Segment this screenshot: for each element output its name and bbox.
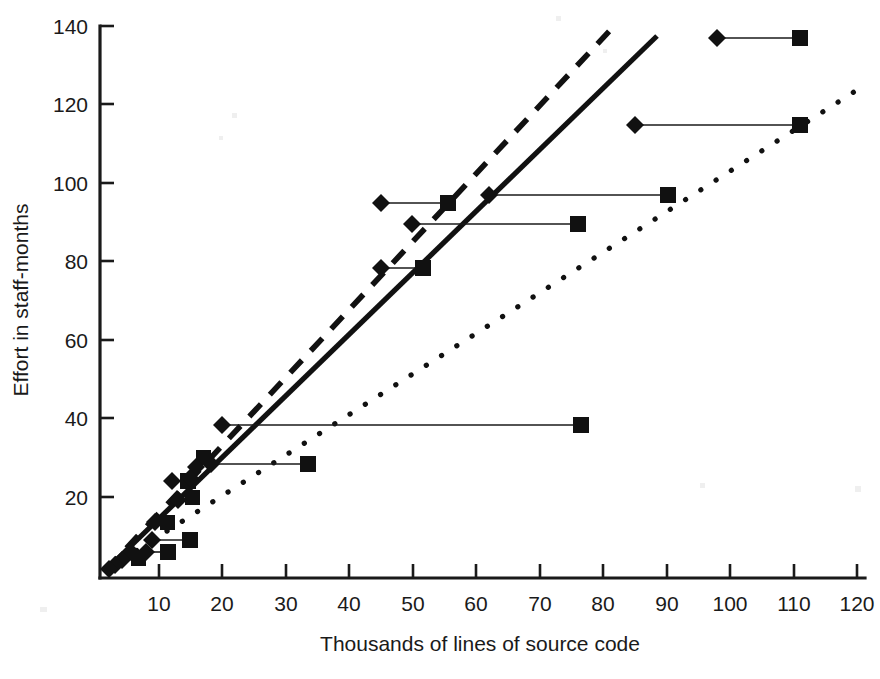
x-tick-label: 100 bbox=[712, 592, 747, 615]
chart-figure: 140 120 100 80 60 40 20 10 20 30 40 50 6… bbox=[0, 0, 880, 679]
marker-square bbox=[570, 216, 586, 232]
scatter-point-group bbox=[100, 450, 211, 578]
marker-diamond bbox=[213, 416, 231, 434]
marker-square bbox=[131, 551, 146, 566]
marker-square bbox=[182, 532, 198, 548]
paired-range bbox=[626, 116, 808, 134]
marker-diamond bbox=[480, 186, 498, 204]
solid-model-line bbox=[106, 36, 657, 570]
axis-frame bbox=[100, 26, 865, 578]
paired-range bbox=[480, 186, 676, 204]
x-axis-title: Thousands of lines of source code bbox=[320, 632, 640, 655]
paired-range bbox=[708, 29, 808, 47]
x-axis-ticks bbox=[159, 564, 857, 578]
x-tick-label: 70 bbox=[528, 592, 551, 615]
marker-diamond bbox=[372, 259, 390, 277]
y-tick-label: 20 bbox=[65, 486, 88, 509]
marker-diamond bbox=[626, 116, 644, 134]
y-tick-label: 80 bbox=[65, 250, 88, 273]
x-tick-label: 90 bbox=[655, 592, 678, 615]
marker-square bbox=[660, 187, 676, 203]
x-tick-label: 40 bbox=[337, 592, 360, 615]
x-tick-label: 30 bbox=[274, 592, 297, 615]
x-tick-label: 10 bbox=[147, 592, 170, 615]
y-tick-label: 40 bbox=[65, 407, 88, 430]
dotted-model-line bbox=[106, 90, 857, 570]
paired-range bbox=[213, 416, 589, 434]
paired-range bbox=[372, 259, 431, 277]
y-tick-label: 100 bbox=[53, 172, 88, 195]
marker-diamond bbox=[708, 29, 726, 47]
x-tick-label: 110 bbox=[777, 592, 810, 615]
y-axis-ticks bbox=[100, 26, 114, 497]
marker-square bbox=[440, 195, 456, 211]
marker-diamond bbox=[163, 472, 181, 490]
x-axis-tick-labels: 10 20 30 40 50 60 70 80 90 100 110 120 bbox=[147, 592, 874, 615]
y-axis-title: Effort in staff-months bbox=[9, 204, 32, 397]
paired-range-group bbox=[137, 29, 808, 561]
marker-square bbox=[300, 456, 316, 472]
marker-square bbox=[573, 417, 589, 433]
y-tick-label: 60 bbox=[65, 329, 88, 352]
x-tick-label: 80 bbox=[591, 592, 614, 615]
marker-square bbox=[792, 117, 808, 133]
marker-square bbox=[185, 490, 200, 505]
x-tick-label: 60 bbox=[464, 592, 487, 615]
chart-plot-area: 140 120 100 80 60 40 20 10 20 30 40 50 6… bbox=[0, 0, 880, 679]
y-axis-tick-labels: 140 120 100 80 60 40 20 bbox=[53, 15, 88, 509]
marker-square bbox=[792, 30, 808, 46]
y-tick-label: 140 bbox=[53, 15, 88, 38]
marker-square bbox=[160, 544, 176, 560]
paired-range bbox=[372, 194, 456, 212]
paired-range bbox=[403, 215, 586, 233]
x-tick-label: 20 bbox=[210, 592, 233, 615]
marker-diamond bbox=[403, 215, 421, 233]
model-lines bbox=[106, 24, 857, 570]
marker-square bbox=[160, 515, 175, 530]
y-tick-label: 120 bbox=[53, 93, 88, 116]
x-tick-label: 50 bbox=[401, 592, 424, 615]
marker-square bbox=[415, 260, 431, 276]
marker-diamond bbox=[372, 194, 390, 212]
x-tick-label: 120 bbox=[839, 592, 874, 615]
